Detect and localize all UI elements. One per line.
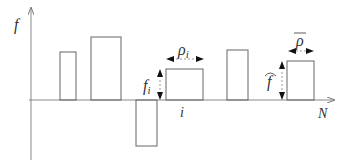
bar-6 [287,61,314,100]
bar-2 [91,37,121,100]
bar-4-i [166,69,203,100]
y-axis-label: f [14,16,21,34]
x-axis-label: N [317,106,328,121]
bar-1 [60,52,76,100]
bar-3-negative [136,100,157,146]
diagram-canvas: f N i fi ρi f ρ [0,0,348,165]
bar-5 [227,50,248,100]
f-i-label: fi [143,77,151,96]
f-hat-label: f [265,73,276,91]
svg-text:ρ: ρ [295,32,304,50]
rho-i-label: ρi [177,41,189,60]
f-hat-height-arrow [279,61,285,100]
f-i-height-arrow [157,69,163,100]
svg-text:f: f [267,73,274,91]
x-tick-label-i: i [180,105,184,120]
rho-bar-label: ρ [294,32,306,50]
